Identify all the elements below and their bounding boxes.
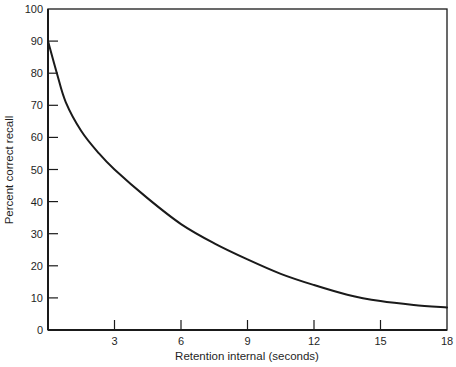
y-tick-label: 80 xyxy=(31,67,43,79)
x-tick-label: 15 xyxy=(374,335,386,347)
recall-chart: 0102030405060708090100 369121518 Retenti… xyxy=(0,0,456,367)
y-tick-label: 100 xyxy=(25,3,43,15)
x-tick-label: 6 xyxy=(178,335,184,347)
y-tick-label: 40 xyxy=(31,196,43,208)
y-tick-label: 20 xyxy=(31,260,43,272)
y-axis-ticks: 0102030405060708090100 xyxy=(25,3,58,336)
y-tick-label: 90 xyxy=(31,35,43,47)
series-layer xyxy=(48,41,447,307)
recall-curve xyxy=(48,41,447,307)
y-tick-label: 70 xyxy=(31,99,43,111)
chart-canvas: 0102030405060708090100 369121518 Retenti… xyxy=(0,0,456,367)
y-axis-title: Percent correct recall xyxy=(3,116,15,225)
y-tick-label: 50 xyxy=(31,164,43,176)
plot-frame xyxy=(48,9,447,330)
x-axis-title: Retention internal (seconds) xyxy=(175,350,319,362)
x-tick-label: 9 xyxy=(244,335,250,347)
y-tick-label: 60 xyxy=(31,131,43,143)
x-tick-label: 3 xyxy=(111,335,117,347)
y-tick-label: 10 xyxy=(31,292,43,304)
x-tick-label: 18 xyxy=(441,335,453,347)
y-tick-label: 0 xyxy=(37,324,43,336)
x-tick-label: 12 xyxy=(308,335,320,347)
x-axis-ticks: 369121518 xyxy=(111,320,453,347)
plot-border xyxy=(48,9,447,330)
y-tick-label: 30 xyxy=(31,228,43,240)
